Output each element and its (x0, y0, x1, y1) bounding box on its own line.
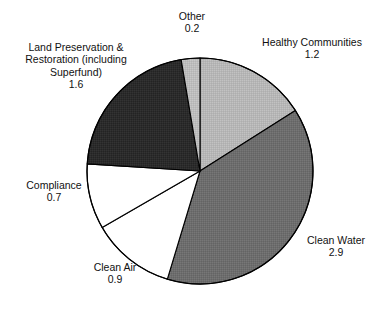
callout-healthy-communities-value: 1.2 (240, 48, 384, 60)
callout-land-preservation-line3: Superfund) (2, 66, 150, 78)
callout-compliance: Compliance 0.7 (4, 179, 104, 204)
callout-clean-air-label: Clean Air (62, 261, 168, 273)
callout-land-preservation-line2: Restoration (including (2, 53, 150, 65)
callout-land-preservation-line1: Land Preservation & (2, 41, 150, 53)
callout-healthy-communities: Healthy Communities 1.2 (240, 36, 384, 61)
callout-land-preservation: Land Preservation & Restoration (includi… (2, 41, 150, 91)
callout-clean-water-label: Clean Water (288, 234, 384, 246)
callout-clean-air: Clean Air 0.9 (62, 261, 168, 286)
callout-land-preservation-value: 1.6 (2, 78, 150, 90)
pie-chart-figure: Other 0.2 Healthy Communities 1.2 Land P… (0, 0, 384, 309)
callout-other-value: 0.2 (142, 22, 242, 34)
callout-other: Other 0.2 (142, 10, 242, 35)
callout-healthy-communities-label: Healthy Communities (240, 36, 384, 48)
callout-other-label: Other (142, 10, 242, 22)
callout-clean-water-value: 2.9 (288, 246, 384, 258)
callout-compliance-value: 0.7 (4, 191, 104, 203)
callout-clean-water: Clean Water 2.9 (288, 234, 384, 259)
callout-compliance-label: Compliance (4, 179, 104, 191)
callout-clean-air-value: 0.9 (62, 273, 168, 285)
pie-slices-group (87, 58, 313, 284)
